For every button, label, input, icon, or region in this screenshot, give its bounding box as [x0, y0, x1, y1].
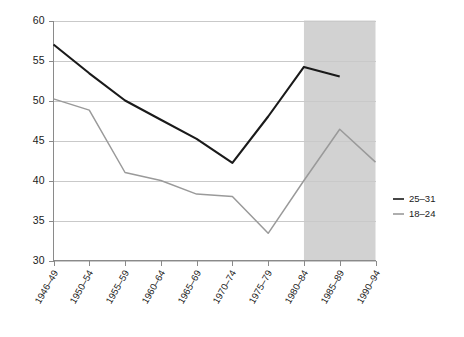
x-tick-label: 1975–79	[246, 268, 274, 306]
y-tick-label: 45	[33, 134, 45, 146]
y-axis-tick-labels: 30354045505560	[33, 14, 54, 266]
x-tick-label: 1955–59	[103, 268, 131, 306]
chart-legend: 25–3118–24	[393, 193, 435, 219]
x-tick-label: 1965–69	[175, 268, 203, 306]
x-tick-label: 1946–49	[32, 268, 60, 306]
legend-label-2: 18–24	[409, 208, 435, 219]
y-tick-label: 30	[33, 254, 45, 266]
y-tick-label: 50	[33, 94, 45, 106]
y-tick-label: 35	[33, 214, 45, 226]
x-tick-label: 1970–74	[210, 268, 238, 306]
series-line-1	[54, 45, 340, 163]
x-axis-tick-labels: 1946–491950–541955–591960–641965–691970–…	[32, 261, 382, 306]
chart-container: 30354045505560 1946–491950–541955–591960…	[0, 0, 464, 337]
projection-shading	[304, 21, 376, 261]
x-tick-label: 1950–54	[67, 268, 95, 306]
line-chart: 30354045505560 1946–491950–541955–591960…	[0, 0, 464, 337]
x-tick-label: 1980–84	[282, 268, 310, 306]
x-tick-label: 1960–64	[139, 268, 167, 306]
y-tick-label: 40	[33, 174, 45, 186]
legend-label-1: 25–31	[409, 193, 435, 204]
shaded-projection-band	[304, 21, 376, 261]
y-tick-label: 55	[33, 54, 45, 66]
x-tick-label: 1990–94	[354, 268, 382, 306]
x-tick-label: 1985–89	[318, 268, 346, 306]
y-tick-label: 60	[33, 14, 45, 26]
